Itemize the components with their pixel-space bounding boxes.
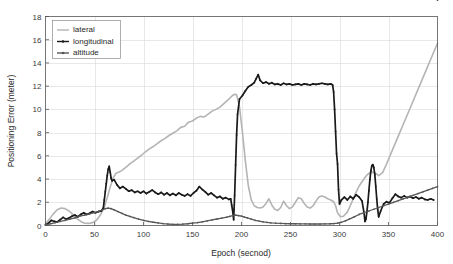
- series-marker-altitude: [254, 219, 256, 221]
- x-axis-title: Epoch (secnod): [211, 248, 271, 258]
- series-marker-longitudinal: [151, 189, 153, 191]
- series-marker-altitude: [69, 218, 71, 220]
- series-marker-longitudinal: [349, 196, 351, 198]
- series-marker-altitude: [129, 216, 131, 218]
- series-marker-longitudinal: [125, 188, 127, 190]
- series-marker-longitudinal: [190, 195, 192, 197]
- series-marker-altitude: [295, 223, 297, 225]
- series-marker-altitude: [148, 221, 150, 223]
- series-marker-longitudinal: [334, 109, 336, 111]
- series-marker-longitudinal: [201, 189, 203, 191]
- series-marker-longitudinal: [297, 83, 299, 85]
- series-marker-altitude: [206, 220, 208, 222]
- series-marker-longitudinal: [116, 184, 118, 186]
- series-marker-longitudinal: [131, 189, 133, 191]
- x-tick-label: 350: [382, 230, 396, 239]
- series-marker-altitude: [250, 218, 252, 220]
- series-marker-longitudinal: [92, 211, 94, 213]
- y-tick-label: 10: [33, 105, 42, 114]
- series-marker-longitudinal: [110, 178, 112, 180]
- series-marker-longitudinal: [59, 219, 61, 221]
- series-marker-longitudinal: [143, 190, 145, 192]
- series-marker-longitudinal: [210, 192, 212, 194]
- series-marker-longitudinal: [160, 192, 162, 194]
- series-marker-altitude: [211, 219, 213, 221]
- series-marker-longitudinal: [312, 83, 314, 85]
- series-marker-longitudinal: [257, 74, 259, 76]
- series-marker-longitudinal: [283, 82, 285, 84]
- series-marker-longitudinal: [271, 82, 273, 84]
- series-marker-longitudinal: [199, 186, 201, 188]
- series-marker-altitude: [417, 193, 419, 195]
- series-marker-longitudinal: [253, 82, 255, 84]
- series-marker-longitudinal: [172, 193, 174, 195]
- series-marker-altitude: [104, 208, 106, 210]
- series-marker-altitude: [407, 196, 409, 198]
- series-marker-altitude: [54, 222, 56, 224]
- series-marker-longitudinal: [412, 197, 414, 199]
- series-marker-longitudinal: [181, 194, 183, 196]
- series-marker-altitude: [113, 209, 115, 211]
- series-marker-longitudinal: [430, 198, 432, 200]
- series-marker-longitudinal: [111, 180, 113, 182]
- series-marker-longitudinal: [346, 199, 348, 201]
- x-tick-label: 150: [186, 230, 200, 239]
- series-marker-altitude: [241, 215, 243, 217]
- series-marker-altitude: [341, 221, 343, 223]
- series-marker-longitudinal: [233, 219, 235, 221]
- series-marker-longitudinal: [119, 187, 121, 189]
- series-marker-altitude: [304, 223, 306, 225]
- series-marker-longitudinal: [242, 95, 244, 97]
- series-marker-longitudinal: [204, 191, 206, 193]
- series-marker-longitudinal: [163, 194, 165, 196]
- series-marker-altitude: [162, 223, 164, 225]
- series-marker-longitudinal: [277, 83, 279, 85]
- series-marker-longitudinal: [306, 84, 308, 86]
- series-marker-altitude: [280, 223, 282, 225]
- series-marker-altitude: [329, 223, 331, 225]
- series-marker-longitudinal: [403, 195, 405, 197]
- series-marker-altitude: [177, 223, 179, 225]
- y-tick-label: 18: [33, 13, 42, 22]
- series-marker-longitudinal: [337, 163, 339, 165]
- series-marker-longitudinal: [137, 190, 139, 192]
- series-marker-altitude: [393, 201, 395, 203]
- series-marker-longitudinal: [303, 83, 305, 85]
- series-marker-longitudinal: [355, 194, 357, 196]
- series-marker-altitude: [94, 212, 96, 214]
- series-marker-altitude: [247, 217, 249, 219]
- series-marker-altitude: [270, 222, 272, 224]
- series-marker-longitudinal: [364, 221, 366, 223]
- series-marker-longitudinal: [280, 84, 282, 86]
- series-marker-longitudinal: [225, 197, 227, 199]
- series-marker-altitude: [353, 216, 355, 218]
- series-marker-longitudinal: [300, 84, 302, 86]
- series-marker-altitude: [110, 208, 112, 210]
- series-marker-altitude: [337, 222, 339, 224]
- legend-label-longitudinal: longitudinal: [73, 37, 114, 46]
- series-marker-longitudinal: [128, 190, 130, 192]
- series-marker-altitude: [216, 218, 218, 220]
- series-marker-altitude: [358, 214, 360, 216]
- series-marker-altitude: [133, 217, 135, 219]
- series-marker-altitude: [167, 223, 169, 225]
- series-marker-altitude: [152, 221, 154, 223]
- series-marker-longitudinal: [289, 83, 291, 85]
- series-marker-altitude: [314, 223, 316, 225]
- series-marker-altitude: [74, 217, 76, 219]
- series-marker-altitude: [383, 205, 385, 207]
- series-marker-longitudinal: [107, 168, 109, 170]
- series-marker-altitude: [59, 221, 61, 223]
- y-tick-label: 0: [37, 222, 42, 231]
- series-marker-longitudinal: [207, 194, 209, 196]
- series-marker-altitude: [182, 223, 184, 225]
- series-marker-altitude: [427, 189, 429, 191]
- series-marker-longitudinal: [146, 193, 148, 195]
- series-marker-altitude: [299, 223, 301, 225]
- series-marker-longitudinal: [315, 84, 317, 86]
- series-marker-longitudinal: [248, 86, 250, 88]
- chart-legend[interactable]: laterallongitudinalaltitude: [53, 21, 121, 59]
- series-marker-longitudinal: [415, 196, 417, 198]
- series-marker-longitudinal: [213, 194, 215, 196]
- y-tick-label: 12: [33, 82, 42, 91]
